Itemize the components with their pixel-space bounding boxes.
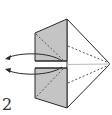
top-flap [35,19,67,61]
kite-body [67,19,110,108]
origami-diagram [0,0,112,115]
arrowhead-top-icon [5,55,11,60]
center-crease [67,64,110,65]
step-number: 2 [2,97,12,113]
arrowhead-bottom-icon [5,68,11,73]
